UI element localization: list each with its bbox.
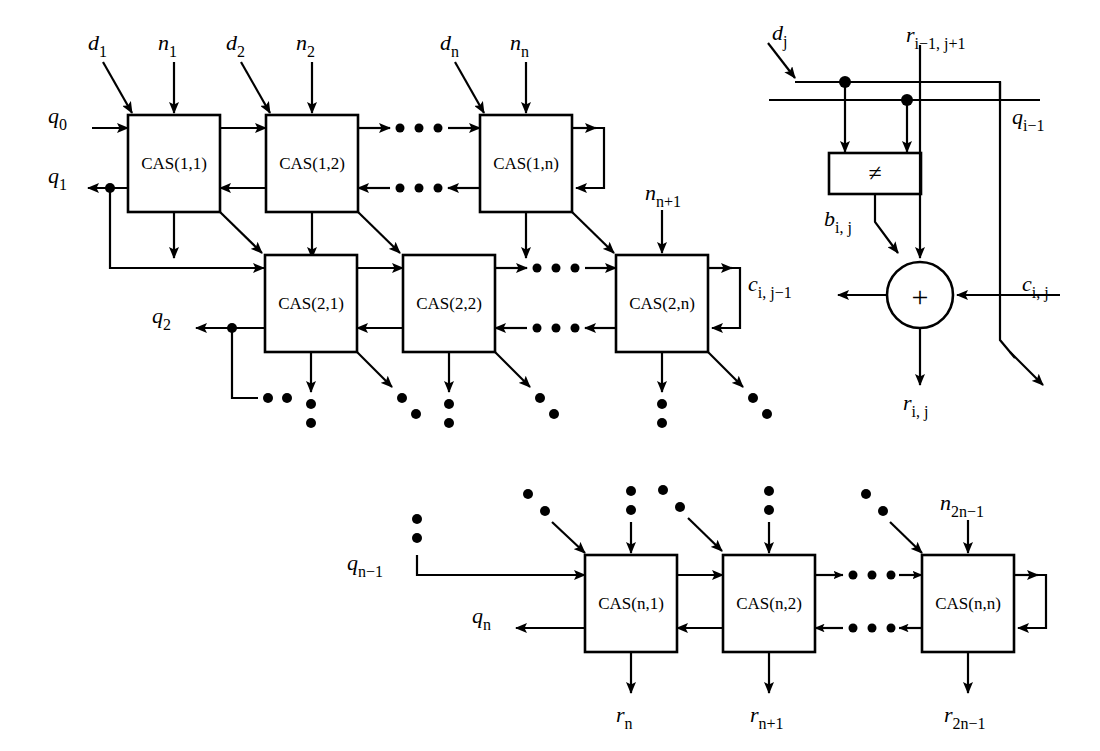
cell-label-cas-n-2: CAS(n,2)	[736, 594, 802, 613]
ellipsis-dot	[657, 418, 667, 428]
ellipsis-dot	[282, 393, 292, 403]
label-d1: d1	[88, 30, 107, 60]
label-r2n1: r2n−1	[944, 702, 986, 732]
ellipsis-dot	[540, 506, 550, 516]
label-qn: qn	[472, 603, 491, 633]
label-q1: q1	[48, 163, 67, 193]
ellipsis-dot	[549, 409, 559, 419]
adder-symbol: +	[912, 280, 929, 313]
cell-label-cas-2-n: CAS(2,n)	[629, 294, 695, 313]
ellipsis-dot	[849, 571, 858, 580]
label-d2: d2	[226, 30, 245, 60]
cell-label-cas-2-2: CAS(2,2)	[416, 294, 482, 313]
ellipsis-dot	[533, 324, 542, 333]
label-q2: q2	[152, 303, 171, 333]
ellipsis-dot	[412, 533, 422, 543]
ellipsis-dot	[887, 571, 896, 580]
label-q0: q0	[48, 103, 67, 133]
ellipsis-dot	[626, 486, 636, 496]
label-nn1: nn+1	[645, 180, 681, 210]
ellipsis-dot	[861, 489, 871, 499]
ellipsis-dot	[868, 571, 877, 580]
ellipsis-dot	[626, 505, 636, 515]
ellipsis-dot	[411, 409, 421, 419]
ellipsis-dot	[263, 393, 273, 403]
wire-dj-bus	[795, 82, 1000, 100]
wire-r2cn-feedback-loop	[708, 268, 740, 328]
label-dj: dj	[772, 20, 787, 51]
label-qn1: qn−1	[347, 550, 383, 580]
wire-diag-r2c1-down	[357, 352, 392, 387]
cell-label-cas-n-1: CAS(n,1)	[598, 594, 664, 613]
wire-d2-input	[241, 62, 270, 113]
ellipsis-dot	[444, 399, 454, 409]
wire-diag-r1c2-to-r2c2	[358, 212, 400, 253]
label-n2n1: n2n−1	[940, 490, 984, 520]
label-bij: bi, j	[824, 206, 852, 237]
ellipsis-dot	[762, 409, 772, 419]
ellipsis-dot	[396, 184, 405, 193]
wire-diag-r2c2-down	[495, 352, 530, 387]
ellipsis-dot	[764, 505, 774, 515]
wire-diag-into-r3c1	[552, 522, 585, 553]
ellipsis-dot	[878, 506, 888, 516]
ellipsis-dot	[571, 264, 580, 273]
ellipsis-dot	[748, 393, 758, 403]
wire-q2-to-next-row	[232, 328, 258, 398]
wire-qprev-diagonal-out	[1010, 352, 1043, 385]
ellipsis-dot	[397, 393, 407, 403]
wire-d1-input	[103, 62, 132, 113]
label-qprev: qi−1	[1012, 104, 1044, 134]
label-cij1: ci, j−1	[748, 271, 792, 302]
ellipsis-dot	[523, 489, 533, 499]
label-rprev: ri−1, j+1	[906, 22, 966, 53]
cell-label-cas-1-n: CAS(1,n)	[493, 154, 559, 173]
cas-cell-detail: ≠ +	[768, 43, 1060, 385]
ellipsis-dot	[444, 418, 454, 428]
label-n1: n1	[158, 30, 177, 60]
label-rn1: rn+1	[750, 702, 784, 732]
ellipsis-dot	[415, 124, 424, 133]
ellipsis-dot	[868, 624, 877, 633]
ellipsis-dot	[849, 624, 858, 633]
wire-dn-input	[455, 62, 484, 113]
wire-diag-r1cn-to-r2cn	[572, 212, 614, 253]
wire-diag-into-r3c2	[688, 518, 722, 551]
wire-bij-to-adder	[875, 194, 898, 253]
ellipsis-dot	[306, 399, 316, 409]
ellipsis-dot	[675, 502, 685, 512]
ellipsis-dot	[412, 514, 422, 524]
ellipsis-dot	[764, 486, 774, 496]
label-dn: dn	[440, 30, 459, 60]
wire-r3cn-feedback-loop	[1014, 575, 1046, 628]
ellipsis-dot	[533, 264, 542, 273]
array-row-1: CAS(1,1) CAS(1,2) CAS(1,n)	[88, 62, 614, 268]
ellipsis-dot	[434, 184, 443, 193]
ellipsis-dot	[535, 393, 545, 403]
ellipsis-dot	[396, 124, 405, 133]
cell-label-cas-n-n: CAS(n,n)	[935, 594, 1001, 613]
wire-qn1-to-row3-input	[417, 555, 585, 575]
wire-diag-r1c1-to-r2c1	[220, 212, 262, 253]
ellipsis-dot	[887, 624, 896, 633]
ellipsis-dot	[552, 264, 561, 273]
label-cij: ci, j	[1022, 271, 1049, 302]
wire-dj-input	[768, 43, 795, 78]
label-rij: ri, j	[903, 390, 928, 421]
ellipsis-dot	[552, 324, 561, 333]
comparator-symbol: ≠	[868, 160, 881, 186]
diagram-svg: CAS(1,1) CAS(1,2) CAS(1,n)	[0, 0, 1100, 751]
wire-diag-r2cn-down	[708, 352, 743, 387]
wire-r1cn-feedback-loop	[572, 128, 604, 188]
ellipsis-dot	[658, 485, 668, 495]
cell-label-cas-1-2: CAS(1,2)	[279, 154, 345, 173]
ellipsis-dot	[306, 418, 316, 428]
array-row-2: CAS(2,1) CAS(2,2) CAS(2,n)	[196, 210, 772, 428]
label-n2: n2	[296, 30, 315, 60]
label-rn: rn	[616, 702, 633, 732]
label-nn: nn	[510, 30, 529, 60]
figure-canvas: CAS(1,1) CAS(1,2) CAS(1,n)	[0, 0, 1100, 751]
cell-label-cas-2-1: CAS(2,1)	[278, 294, 344, 313]
ellipsis-dot	[571, 324, 580, 333]
ellipsis-dot	[434, 124, 443, 133]
